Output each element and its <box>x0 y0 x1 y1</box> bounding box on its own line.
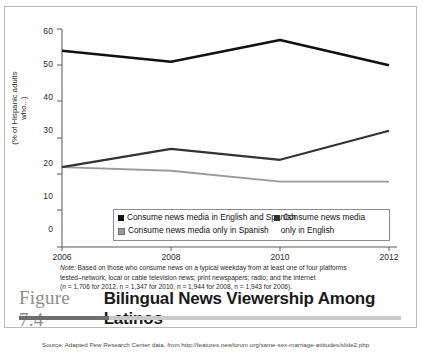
legend-item-only-spanish: Consume news media only in Spanish <box>118 225 272 236</box>
note-line-2: tested–network, local or cable televisio… <box>60 274 315 281</box>
note-line-1: Based on those who consume news on a typ… <box>76 264 347 271</box>
caption-row: Figure 7.4 Bilingual News Viewership Amo… <box>19 287 416 331</box>
series-english-and-spanish-line <box>62 40 389 65</box>
source-line: Source: Adapted Pew Research Center data… <box>42 341 420 348</box>
legend-item-english-and-spanish: Consume news media in English and Spanis… <box>118 212 274 223</box>
figure-caption: Figure 7.4 Bilingual News Viewership Amo… <box>5 283 416 327</box>
legend-swatch-square-icon <box>274 215 280 221</box>
legend-label-only-english-line2: only in English <box>272 225 335 236</box>
legend-label-english-and-spanish: Consume news media in English and Spanis… <box>127 212 296 223</box>
legend-swatch-square-icon <box>118 215 124 221</box>
legend-swatch-hatched-square-icon <box>118 228 125 235</box>
legend-item-only-english-cont: only in English <box>272 225 386 236</box>
legend-row-2: Consume news media only in Spanish only … <box>118 225 386 238</box>
legend-row-1: Consume news media in English and Spanis… <box>118 212 386 225</box>
series-only-spanish-line <box>62 167 389 182</box>
note-label: Note: <box>60 264 76 271</box>
figure-title: Bilingual News Viewership Among Latinos <box>104 289 416 329</box>
caption-rule <box>19 316 401 320</box>
chart-area: (% of Hispanic adults who...) 60 50 40 3… <box>5 7 416 257</box>
legend-label-only-spanish: Consume news media only in Spanish <box>128 225 269 236</box>
figure-number: Figure 7.4 <box>19 287 94 331</box>
series-only-english-line <box>62 131 389 167</box>
legend-label-only-english-line1: Consume news media <box>283 212 365 223</box>
chart-legend: Consume news media in English and Spanis… <box>113 209 390 241</box>
figure-card: (% of Hispanic adults who...) 60 50 40 3… <box>4 6 417 328</box>
legend-item-only-english: Consume news media <box>274 212 386 223</box>
